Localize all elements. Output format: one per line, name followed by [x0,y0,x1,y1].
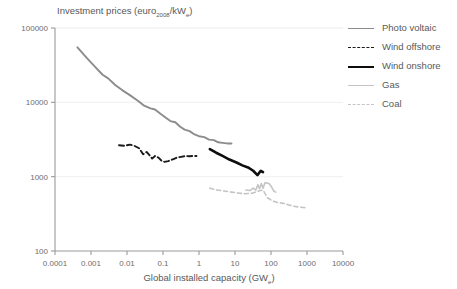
legend-item-gas[interactable]: Gas [348,75,456,94]
legend-swatch-wind-offshore [348,42,374,52]
y-axis-title: Investment prices (euro2008/kWe) [57,5,193,18]
x-tick-label: 10 [231,259,240,268]
chart-figure: 0.00010.0010.010.1110100100010000 100000… [0,0,457,289]
legend-label-coal: Coal [382,99,402,109]
x-axis-ticks: 0.00010.0010.010.1110100100010000 [43,251,355,268]
legend-label-wind-onshore: Wind onshore [382,61,441,71]
series-line-coal [210,188,307,208]
legend-swatch-gas [348,80,374,90]
legend-swatch-photo-voltaic [348,23,374,33]
x-tick-label: 100 [264,259,278,268]
y-tick-label: 1000 [30,173,48,182]
series-line-photo-voltaic [77,47,231,143]
series-line-wind-onshore [210,149,263,175]
y-tick-label: 100 [35,247,49,256]
series-line-wind-offshore [119,145,196,162]
data-series-layer [77,47,307,208]
legend-item-wind-offshore[interactable]: Wind offshore [348,37,456,56]
x-tick-label: 0.0001 [43,259,68,268]
legend-label-wind-offshore: Wind offshore [382,42,440,52]
x-tick-label: 0.1 [157,259,169,268]
legend-label-gas: Gas [382,80,399,90]
x-tick-label: 1 [197,259,202,268]
legend-swatch-wind-onshore [348,61,374,71]
gridlines [55,28,343,177]
x-tick-label: 0.01 [119,259,135,268]
legend-swatch-coal [348,99,374,109]
legend-item-coal[interactable]: Coal [348,94,456,113]
chart-legend: Photo voltaic Wind offshore Wind onshore… [348,18,456,113]
legend-item-wind-onshore[interactable]: Wind onshore [348,56,456,75]
y-tick-label: 10000 [26,98,49,107]
x-axis-title: Global installed capacity (GWe) [143,272,274,285]
y-tick-label: 100000 [21,24,48,33]
legend-label-photo-voltaic: Photo voltaic [382,23,436,33]
x-tick-label: 0.001 [81,259,102,268]
legend-item-photo-voltaic[interactable]: Photo voltaic [348,18,456,37]
axis-lines [55,28,343,251]
x-tick-label: 1000 [298,259,316,268]
y-axis-ticks: 100000100001000100 [21,24,55,256]
x-tick-label: 10000 [332,259,355,268]
